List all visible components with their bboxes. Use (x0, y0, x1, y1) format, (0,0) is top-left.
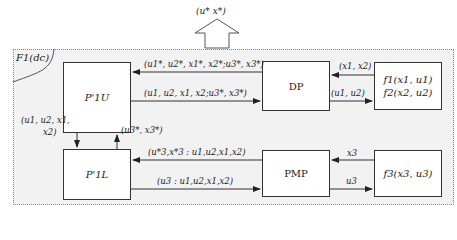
dp-to-p1u-label: (u1*, u2*, x1*, x2*;u3*, x3*) (144, 59, 264, 69)
p1u-to-p1l-label-2: x2) (43, 127, 57, 137)
p1l-to-p1u-label: (u3*, x3*) (121, 125, 163, 135)
dp-to-f12-label: (u1, u2) (331, 88, 365, 98)
pmp-to-f3-label: u3 (346, 176, 357, 186)
p1u-to-dp-label: (u1, u2, x1, x2;u3*, x3*) (144, 88, 247, 98)
pmp-to-p1l-label: (u*3,x*3 : u1,u2,x1,x2) (148, 147, 245, 157)
p1l-to-pmp-label: (u3 : u1,u2,x1,x2) (157, 176, 233, 186)
p1u-to-p1l-label-1: (u1, u2, x1, (21, 115, 70, 125)
f12-to-dp-label: (x1, x2) (339, 61, 371, 71)
f3-to-pmp-label: x3 (347, 148, 357, 158)
